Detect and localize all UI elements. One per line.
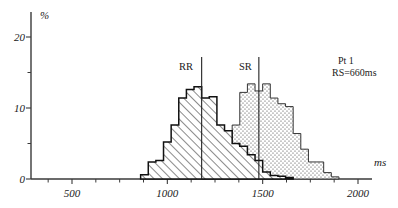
annotation-patient: Pt 1 — [338, 55, 354, 67]
x-tick-label: 2000 — [328, 188, 388, 199]
series-label-sr: SR — [239, 62, 252, 73]
series-label-rr: RR — [179, 62, 193, 73]
x-axis-title: ms — [374, 157, 386, 168]
y-tick-label: 20 — [0, 32, 25, 43]
x-tick-label: 1500 — [233, 188, 293, 199]
histogram-plot — [0, 0, 398, 208]
figure-root: % ms RR SR Pt 1 RS=660ms 01020 500100015… — [0, 0, 398, 208]
y-tick-label: 0 — [0, 174, 25, 185]
x-tick-label: 1000 — [137, 188, 197, 199]
y-tick-label: 10 — [0, 103, 25, 114]
y-axis-ticks — [26, 37, 31, 179]
x-tick-label: 500 — [42, 188, 102, 199]
y-axis-title: % — [40, 10, 49, 21]
annotation-rs-value: RS=660ms — [332, 67, 377, 79]
